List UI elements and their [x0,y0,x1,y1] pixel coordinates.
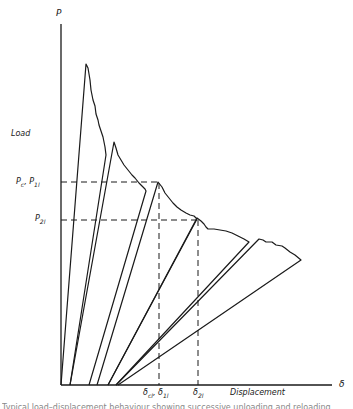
x-tick-delta-cl-1l: δcl, δ1l [143,388,168,399]
x-axis-symbol: δ [339,379,345,389]
x-axis-label: Displacement [230,388,285,397]
loop-5 [116,239,301,385]
loop-4 [108,218,249,385]
load-displacement-diagram [0,0,353,409]
loop-3 [97,182,197,385]
y-tick-pc-p1l: Pc, P1l [16,177,40,188]
x-tick-delta-2l: δ2l [193,388,203,399]
figure-caption-cut: Typical load–displacement behaviour show… [2,403,352,409]
x-tick-sub: 1l [163,392,168,399]
y-tick-sub: 1l [34,181,39,188]
x-tick-sub: 2l [198,392,203,399]
y-axis-label: Load [11,129,30,138]
y-axis-symbol: P [56,8,61,18]
y-tick-sub: 2l [40,218,45,225]
y-tick-p2l: P2l [35,214,45,225]
